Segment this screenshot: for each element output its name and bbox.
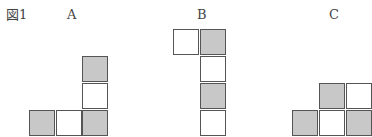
white-square: [56, 110, 82, 136]
white-square: [319, 110, 345, 136]
white-square: [346, 83, 372, 109]
white-square: [173, 29, 199, 55]
shaded-square: [292, 110, 318, 136]
shaded-square: [82, 110, 108, 136]
white-square: [200, 110, 226, 136]
white-square: [82, 83, 108, 109]
figure-caption: 図1: [6, 8, 27, 22]
shaded-square: [319, 83, 345, 109]
panel-label: A: [67, 8, 76, 22]
panel-label: C: [329, 8, 339, 22]
shaded-square: [82, 56, 108, 82]
shaded-square: [346, 110, 372, 136]
panel-label: B: [197, 8, 207, 22]
shaded-square: [29, 110, 55, 136]
figure-caption-text: 図1: [6, 7, 27, 22]
white-square: [200, 56, 226, 82]
shaded-square: [200, 29, 226, 55]
shaded-square: [200, 83, 226, 109]
